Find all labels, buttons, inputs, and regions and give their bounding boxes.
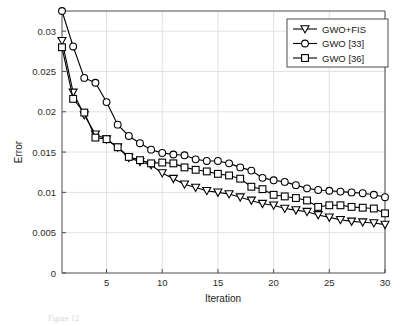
data-point-marker	[292, 182, 299, 189]
data-point-marker	[125, 133, 132, 140]
legend-label: GWO [36]	[322, 53, 364, 64]
y-tick-label: 0.005	[32, 227, 56, 238]
data-point-marker	[81, 109, 88, 116]
data-point-marker	[348, 203, 355, 210]
x-tick-label: 25	[324, 277, 335, 288]
data-point-marker	[159, 159, 166, 166]
y-tick-label: 0.025	[32, 66, 56, 77]
data-point-marker	[226, 160, 233, 167]
data-point-marker	[237, 164, 244, 171]
data-point-marker	[103, 99, 110, 106]
data-point-marker	[92, 134, 99, 141]
y-tick-label: 0.02	[38, 106, 57, 117]
data-point-marker	[315, 203, 322, 210]
legend-label: GWO+FIS	[322, 24, 366, 35]
data-point-marker	[70, 95, 77, 102]
data-point-marker	[281, 193, 288, 200]
data-point-marker	[170, 160, 177, 167]
data-point-marker	[203, 158, 210, 165]
data-point-marker	[270, 191, 277, 198]
legend-marker-circle	[302, 40, 309, 47]
legend-marker-square	[302, 55, 309, 62]
data-point-marker	[382, 210, 389, 217]
data-point-marker	[92, 79, 99, 86]
data-point-marker	[226, 172, 233, 179]
data-point-marker	[137, 157, 144, 164]
data-point-marker	[359, 204, 366, 211]
data-point-marker	[259, 174, 266, 181]
data-point-marker	[59, 44, 66, 51]
data-point-marker	[382, 194, 389, 201]
data-point-marker	[304, 185, 311, 192]
x-tick-label: 30	[380, 277, 391, 288]
figure-container: 00.0050.010.0150.020.0250.03 51015202530…	[0, 0, 404, 326]
data-point-marker	[337, 188, 344, 195]
data-point-marker	[148, 146, 155, 153]
data-point-marker	[304, 197, 311, 204]
data-point-marker	[148, 160, 155, 167]
data-point-marker	[137, 140, 144, 147]
data-point-marker	[125, 154, 132, 161]
x-tick-label: 15	[213, 277, 224, 288]
data-point-marker	[315, 187, 322, 194]
y-tick-label: 0.03	[38, 26, 57, 37]
data-point-marker	[181, 164, 188, 171]
data-point-marker	[370, 205, 377, 212]
data-point-marker	[215, 170, 222, 177]
error-vs-iteration-chart: 00.0050.010.0150.020.0250.03 51015202530…	[0, 0, 404, 326]
data-point-marker	[370, 191, 377, 198]
y-tick-label: 0.015	[32, 147, 56, 158]
data-point-marker	[237, 175, 244, 182]
figure-caption: Figure 12	[48, 314, 79, 323]
x-tick-label: 20	[268, 277, 279, 288]
data-point-marker	[326, 202, 333, 209]
data-point-marker	[203, 168, 210, 175]
data-point-marker	[192, 166, 199, 173]
data-point-marker	[281, 179, 288, 186]
legend-label: GWO [33]	[322, 38, 364, 49]
chart-legend[interactable]: GWO+FISGWO [33]GWO [36]	[287, 19, 388, 67]
data-point-marker	[359, 190, 366, 197]
data-point-marker	[114, 121, 121, 128]
y-tick-label: 0.01	[38, 187, 57, 198]
data-point-marker	[70, 43, 77, 50]
x-axis-title: Iteration	[205, 293, 241, 304]
data-point-marker	[248, 183, 255, 190]
data-point-marker	[337, 202, 344, 209]
legend-entry-gwo-36[interactable]: GWO [36]	[293, 53, 364, 64]
data-point-marker	[181, 152, 188, 159]
y-axis-title: Error	[13, 140, 24, 163]
x-tick-label: 5	[104, 277, 109, 288]
data-point-marker	[215, 158, 222, 165]
data-point-marker	[259, 186, 266, 193]
data-point-marker	[192, 156, 199, 163]
data-point-marker	[248, 167, 255, 174]
data-point-marker	[270, 177, 277, 184]
data-point-marker	[103, 136, 110, 143]
legend-entries: GWO+FISGWO [33]GWO [36]	[293, 24, 366, 64]
data-point-marker	[59, 8, 66, 15]
y-tick-label: 0	[51, 268, 56, 279]
data-point-marker	[114, 144, 121, 151]
data-point-marker	[159, 149, 166, 156]
data-point-marker	[170, 151, 177, 158]
x-tick-label: 10	[157, 277, 168, 288]
data-point-marker	[81, 75, 88, 82]
data-point-marker	[348, 189, 355, 196]
data-point-marker	[326, 187, 333, 194]
data-point-marker	[292, 195, 299, 202]
